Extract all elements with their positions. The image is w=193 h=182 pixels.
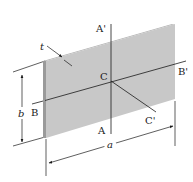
plate-left-edge (43, 61, 46, 138)
label-b-dim: b (18, 108, 24, 119)
label-b: B (31, 107, 38, 118)
plate-face (46, 24, 175, 138)
label-c: C (100, 71, 108, 82)
label-a-prime: A' (95, 23, 106, 34)
label-a-dim: a (107, 139, 113, 150)
b-extension-lines (13, 61, 45, 146)
label-b-prime: B' (178, 66, 188, 77)
plate-diagram: t A' A C B' B C' b a (0, 0, 193, 182)
label-a: A (97, 125, 106, 136)
thickness-arrow (47, 46, 62, 57)
label-c-prime: C' (145, 115, 155, 126)
label-t: t (40, 41, 45, 52)
